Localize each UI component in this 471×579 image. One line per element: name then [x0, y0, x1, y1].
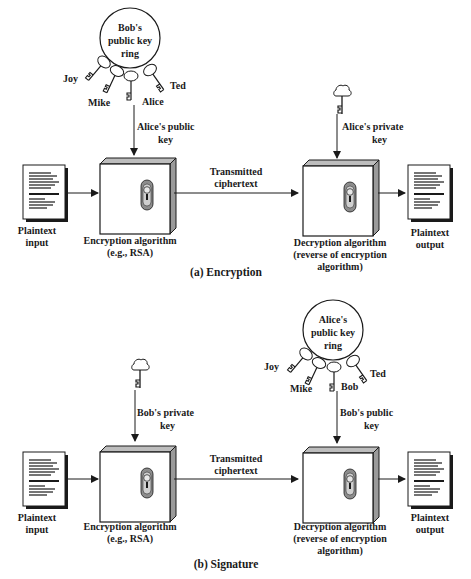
- plaintext-input-label-line-1: Plaintext: [18, 225, 57, 236]
- private-key-icon: [334, 85, 351, 114]
- decryption-algorithm-box: [303, 160, 379, 236]
- enc-algo-label-line-1: Encryption algorithm: [83, 521, 177, 532]
- key-label-bob: Bob: [341, 381, 359, 392]
- plaintext-input-label-line-1: Plaintext: [18, 512, 57, 523]
- plaintext-output-label-line-2: output: [416, 524, 445, 535]
- key-label-mike: Mike: [290, 383, 313, 394]
- channel-label-line-2: ciphertext: [214, 178, 258, 189]
- plaintext-input-label-line-2: input: [26, 524, 49, 535]
- plaintext-output-label-line-1: Plaintext: [411, 512, 450, 523]
- key-ring-title-line-2: public key: [311, 327, 355, 338]
- panel-signature: Bob's private key Alice's public key rin…: [18, 300, 453, 571]
- key-icon-bob: [327, 362, 341, 391]
- channel-label-line-2: ciphertext: [214, 465, 258, 476]
- plaintext-output-document-icon: [408, 452, 453, 509]
- caption-encryption: (a) Encryption: [190, 266, 262, 279]
- enc-algo-label-line-2: (e.g., RSA): [107, 533, 153, 545]
- plaintext-input-label-line-2: input: [26, 237, 49, 248]
- key-ring-bob: Bob's public key ring Joy Mike Alice Ted: [63, 8, 186, 108]
- key-ring-title-line-3: ring: [121, 48, 139, 59]
- key-icon-ted: [141, 62, 169, 94]
- channel-label-line-1: Transmitted: [210, 166, 263, 177]
- key-label-alice: Alice: [142, 96, 164, 107]
- encryption-algorithm-box: [100, 446, 176, 522]
- enc-key-label-line-2: key: [160, 420, 175, 431]
- dec-algo-label-line-1: Decryption algorithm: [294, 237, 387, 248]
- enc-key-label-line-1: Alice's public: [137, 121, 195, 132]
- key-label-ted: Ted: [170, 80, 186, 91]
- dec-algo-label-line-2: (reverse of encryption: [293, 249, 387, 261]
- dec-algo-label-line-3: algorithm): [317, 545, 363, 557]
- key-icon-alice: [124, 71, 138, 100]
- key-label-joy: Joy: [63, 73, 78, 84]
- key-label-ted: Ted: [370, 368, 386, 379]
- enc-algo-label-line-1: Encryption algorithm: [83, 235, 177, 246]
- dec-algo-label-line-2: (reverse of encryption: [293, 533, 387, 545]
- key-ring-title-line-1: Bob's: [118, 22, 142, 33]
- plaintext-output-document-icon: [408, 165, 453, 222]
- dec-key-label-line-1: Bob's public: [340, 407, 394, 418]
- dec-key-label-line-1: Alice's private: [342, 121, 404, 132]
- plaintext-output-label-line-1: Plaintext: [411, 227, 450, 238]
- enc-algo-label-line-2: (e.g., RSA): [107, 247, 153, 259]
- key-label-mike: Mike: [88, 97, 111, 108]
- plaintext-output-label-line-2: output: [416, 239, 445, 250]
- decryption-algorithm-box: [303, 447, 379, 523]
- private-key-icon: [132, 359, 149, 388]
- channel-label-line-1: Transmitted: [210, 453, 263, 464]
- key-ring-alice: Alice's public key ring Joy Mike Bob Ted: [264, 300, 386, 394]
- panel-encryption: Bob's public key ring Joy Mike Alice Ted…: [18, 8, 453, 279]
- dec-key-label-line-2: key: [364, 420, 379, 431]
- enc-key-label-line-1: Bob's private: [137, 407, 195, 418]
- dec-key-label-line-2: key: [372, 134, 387, 145]
- public-key-diagram: Bob's public key ring Joy Mike Alice Ted…: [0, 0, 471, 579]
- dec-algo-label-line-3: algorithm): [317, 261, 363, 273]
- key-ring-title-line-3: ring: [324, 340, 342, 351]
- caption-signature: (b) Signature: [194, 558, 259, 571]
- key-icon-mike: [101, 64, 126, 96]
- enc-key-label-line-2: key: [158, 134, 173, 145]
- encryption-algorithm-box: [100, 158, 176, 234]
- dec-algo-label-line-1: Decryption algorithm: [294, 521, 387, 532]
- key-ring-title-line-2: public key: [108, 35, 152, 46]
- key-label-joy: Joy: [264, 361, 279, 372]
- key-icon-ted: [344, 353, 372, 385]
- plaintext-input-document-icon: [23, 452, 68, 509]
- key-ring-title-line-1: Alice's: [319, 314, 347, 325]
- plaintext-input-document-icon: [23, 165, 68, 222]
